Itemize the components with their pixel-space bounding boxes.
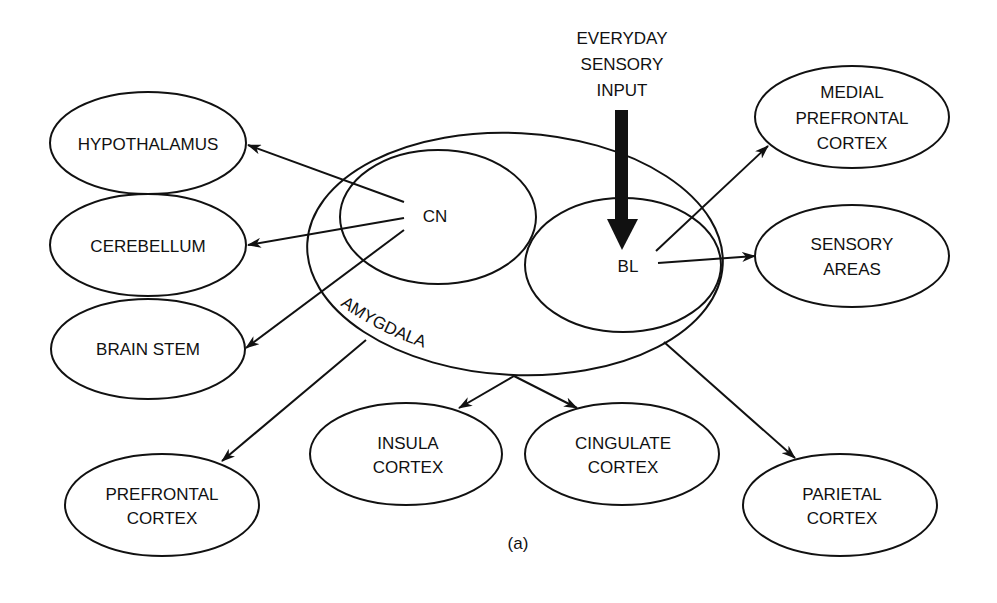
insula-label-1: INSULA: [377, 434, 439, 453]
cingulate-label-2: CORTEX: [588, 458, 659, 477]
input-label-line-2: SENSORY: [581, 55, 664, 74]
prefrontal-cortex-ellipse: [65, 454, 259, 556]
prefrontal-label-2: CORTEX: [127, 509, 198, 528]
cn-label: CN: [423, 207, 448, 226]
arrow-amygdala-parietal: [664, 342, 795, 458]
hypothalamus-label: HYPOTHALAMUS: [78, 135, 219, 154]
sensory-areas-label-2: AREAS: [823, 260, 881, 279]
input-label-line-1: EVERYDAY: [576, 29, 667, 48]
parietal-label-2: CORTEX: [807, 509, 878, 528]
cingulate-cortex-ellipse: [525, 403, 719, 505]
cingulate-label-1: CINGULATE: [575, 434, 671, 453]
bl-label: BL: [618, 257, 639, 276]
parietal-cortex-ellipse: [743, 454, 937, 556]
insula-label-2: CORTEX: [373, 458, 444, 477]
arrow-amygdala-insula: [459, 376, 514, 408]
sensory-input-arrow: [607, 110, 638, 250]
sensory-areas-label-1: SENSORY: [811, 235, 894, 254]
arrow-cn-hypothalamus: [248, 145, 404, 202]
medial-prefrontal-label-2: PREFRONTAL: [795, 109, 908, 128]
medial-prefrontal-label-3: CORTEX: [817, 134, 888, 153]
brain-stem-label: BRAIN STEM: [96, 340, 200, 359]
medial-prefrontal-label-1: MEDIAL: [820, 83, 883, 102]
amygdala-ellipse: [301, 122, 729, 385]
amygdala-diagram: EVERYDAY SENSORY INPUT CN BL HYPOTHALAMU…: [0, 0, 997, 603]
parietal-label-1: PARIETAL: [802, 485, 882, 504]
cerebellum-label: CEREBELLUM: [90, 237, 205, 256]
sensory-areas-ellipse: [755, 205, 949, 307]
insula-cortex-ellipse: [310, 403, 502, 505]
prefrontal-label-1: PREFRONTAL: [105, 485, 218, 504]
arrow-bl-sensory-areas: [658, 256, 755, 263]
arrow-cn-cerebellum: [248, 218, 404, 245]
arrow-amygdala-cingulate: [514, 376, 577, 408]
input-label-line-3: INPUT: [597, 81, 648, 100]
figure-caption: (a): [508, 534, 529, 553]
